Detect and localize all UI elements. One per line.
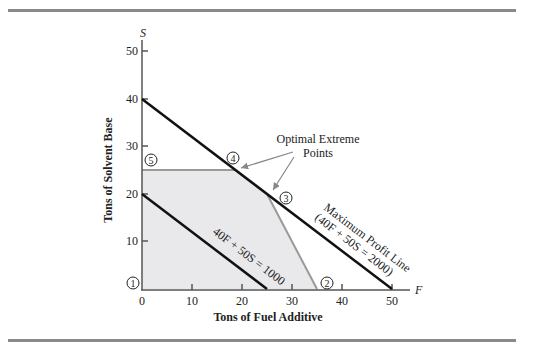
y-tick-10: 10 (126, 234, 138, 248)
bottom-rule (8, 339, 516, 342)
x-tick-20: 20 (236, 294, 248, 308)
x-tick-0: 0 (139, 294, 145, 308)
x-axis-title: Tons of Fuel Additive (213, 310, 323, 324)
arrow-to-point-3 (273, 157, 294, 190)
top-rule (8, 9, 516, 12)
y-var-label: S (140, 26, 146, 40)
chart-figure: 50 40 30 20 10 0 10 20 30 40 50 S F Tons… (0, 0, 544, 350)
svg-text:3: 3 (284, 193, 289, 204)
arrow-to-point-4 (241, 152, 293, 168)
svg-text:1: 1 (131, 278, 136, 289)
svg-text:4: 4 (231, 153, 236, 164)
extreme-point-3: 3 (280, 192, 292, 204)
extreme-point-1: 1 (127, 277, 139, 289)
x-tick-40: 40 (336, 294, 348, 308)
y-tick-20: 20 (126, 187, 138, 201)
optimal-annotation-line2: Points (303, 146, 333, 160)
extreme-point-5: 5 (145, 154, 157, 166)
y-tick-40: 40 (126, 92, 138, 106)
extreme-point-4: 4 (227, 152, 239, 164)
svg-text:2: 2 (325, 278, 330, 289)
feasible-region (142, 170, 317, 289)
optimal-annotation-line1: Optimal Extreme (277, 132, 360, 146)
x-tick-10: 10 (186, 294, 198, 308)
y-tick-30: 30 (126, 139, 138, 153)
x-tick-30: 30 (286, 294, 298, 308)
extreme-point-2: 2 (321, 277, 333, 289)
x-tick-50: 50 (386, 294, 398, 308)
y-axis-title: Tons of Solvent Base (101, 117, 115, 223)
x-var-label: F (414, 283, 423, 297)
y-tick-50: 50 (126, 44, 138, 58)
svg-text:5: 5 (149, 155, 154, 166)
